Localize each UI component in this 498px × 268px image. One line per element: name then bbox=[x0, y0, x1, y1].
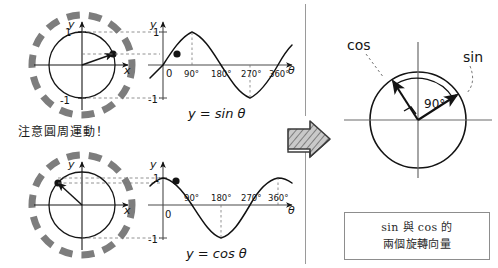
cosine-ytick-label-neg1: -1 bbox=[148, 234, 158, 245]
sin-vector-label: sin bbox=[463, 49, 483, 65]
summary-callout: sin 與 cos 的 兩個旋轉向量 bbox=[344, 212, 490, 260]
sin-leader-line bbox=[466, 66, 473, 94]
sine-xtick-180: 180° bbox=[211, 69, 231, 79]
summary-line-2: 兩個旋轉向量 bbox=[383, 238, 451, 252]
cos-vector bbox=[393, 81, 418, 120]
cosine-xtick-360: 360° bbox=[268, 193, 288, 203]
rotating-vectors-group: 90° cos sin bbox=[344, 37, 492, 178]
cos-vector-label: cos bbox=[347, 37, 371, 53]
radius-vector-sine bbox=[82, 54, 113, 65]
sine-xtick-90: 90° bbox=[184, 69, 199, 79]
circle-y-label-cosine: y bbox=[67, 158, 75, 171]
cosine-y-axis-label: y bbox=[149, 158, 157, 171]
sine-xtick-270: 270° bbox=[241, 69, 261, 79]
cos-leader-line bbox=[366, 54, 384, 78]
radius-vector-cosine bbox=[58, 183, 82, 205]
figure-canvas: y x 1 -1 y θ 1 -1 0 90° 180° 270° 3 bbox=[0, 0, 498, 268]
cosine-equation: y = cos θ bbox=[185, 246, 247, 261]
cosine-circle-group: y x bbox=[32, 155, 160, 255]
sine-circle-group: y x 1 -1 bbox=[32, 15, 160, 115]
cosine-ytick-label-1: 1 bbox=[153, 173, 159, 184]
attention-note: 注意圓周運動！ bbox=[18, 124, 109, 139]
sine-origin-label: 0 bbox=[166, 68, 172, 79]
cosine-xtick-90: 90° bbox=[184, 193, 199, 203]
cosine-origin-label: 0 bbox=[165, 209, 171, 220]
sine-xtick-360: 360° bbox=[269, 69, 289, 79]
sine-ytick-label-neg1: -1 bbox=[148, 94, 158, 105]
cosine-xtick-180: 180° bbox=[211, 193, 231, 203]
sine-graph-group: y θ 1 -1 0 90° 180° 270° 360° y = sin θ bbox=[148, 18, 295, 121]
angle-arc bbox=[396, 78, 453, 98]
cosine-xtick-270: 270° bbox=[241, 193, 261, 203]
transition-arrow bbox=[288, 121, 330, 157]
circle-tick-top-label-sine: 1 bbox=[65, 27, 71, 38]
circle-x-label-sine: x bbox=[123, 64, 131, 77]
cosine-x-axis-label: θ bbox=[288, 204, 295, 217]
circle-tick-bottom-label-sine: -1 bbox=[60, 95, 70, 106]
sine-equation: y = sin θ bbox=[187, 106, 246, 121]
circle-x-label-cosine: x bbox=[123, 204, 131, 217]
cosine-curve bbox=[150, 178, 292, 238]
angle-label-90: 90° bbox=[424, 97, 445, 111]
sine-moving-point bbox=[173, 50, 180, 57]
cosine-graph-group: y θ 1 -1 0 90° 180° 270° 360° y = cos θ bbox=[148, 158, 295, 261]
summary-line-1: sin 與 cos 的 bbox=[381, 221, 453, 235]
sine-ytick-label-1: 1 bbox=[153, 27, 159, 38]
cosine-moving-point bbox=[172, 177, 179, 184]
